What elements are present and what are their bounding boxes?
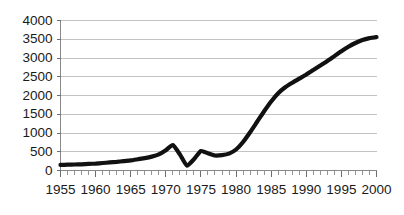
- x-tick-label-2000: 2000: [361, 182, 391, 197]
- x-tick-label-1960: 1960: [81, 182, 111, 197]
- y-tick-label-3000: 3000: [22, 50, 52, 65]
- x-tick-label-1975: 1975: [186, 182, 216, 197]
- line-chart: 05001000150020002500300035004000 1955196…: [0, 0, 404, 215]
- y-tick-label-2000: 2000: [22, 88, 52, 103]
- y-tick-label-1500: 1500: [22, 106, 52, 121]
- y-tick-label-0: 0: [45, 163, 53, 178]
- x-tick-label-1985: 1985: [256, 182, 286, 197]
- x-tick-label-1980: 1980: [221, 182, 251, 197]
- x-tick-label-1955: 1955: [45, 182, 75, 197]
- x-tick-label-1965: 1965: [116, 182, 146, 197]
- x-tick-label-1970: 1970: [151, 182, 181, 197]
- y-tick-label-3500: 3500: [22, 31, 52, 46]
- y-tick-label-4000: 4000: [22, 13, 52, 28]
- x-tick-label-1995: 1995: [326, 182, 356, 197]
- y-tick-label-2500: 2500: [22, 69, 52, 84]
- y-tick-label-500: 500: [30, 144, 53, 159]
- x-tick-label-1990: 1990: [291, 182, 321, 197]
- y-tick-label-1000: 1000: [22, 125, 52, 140]
- chart-canvas: 05001000150020002500300035004000 1955196…: [0, 0, 404, 215]
